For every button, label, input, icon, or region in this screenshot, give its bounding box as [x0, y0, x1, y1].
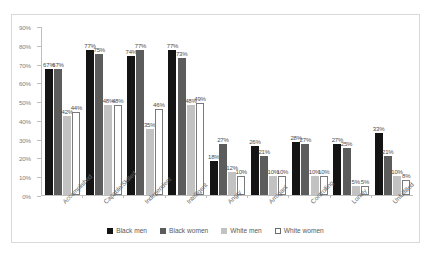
legend-label: White women	[284, 227, 324, 234]
bar[interactable]	[333, 144, 341, 195]
bar[interactable]	[63, 116, 71, 195]
bar-group: 18%27%12%10%	[207, 27, 248, 195]
bar-slot: 35%	[146, 27, 154, 195]
bar-slot: 48%	[104, 27, 112, 195]
bar-value-label: 35%	[144, 122, 155, 128]
bar-slot: 27%	[333, 27, 341, 195]
bar[interactable]	[95, 54, 103, 195]
bar-slot: 28%	[292, 27, 300, 195]
y-axis-tick-label: 80%	[19, 42, 31, 49]
bar-value-label: 21%	[258, 149, 269, 155]
bar-slot: 18%	[210, 27, 218, 195]
bar-value-label: 27%	[300, 137, 311, 143]
bar-groups: 67%67%42%44%77%75%48%48%74%77%35%46%77%7…	[42, 27, 413, 195]
bar-value-label: 67%	[52, 62, 63, 68]
y-axis-tick-label: 40%	[19, 117, 31, 124]
bar-slot: 10%	[393, 27, 401, 195]
bar-slot: 25%	[343, 27, 351, 195]
y-axis-tick: 30%	[37, 140, 41, 141]
bar-group: 77%75%48%48%	[83, 27, 124, 195]
y-axis-tick: 90%	[37, 27, 41, 28]
bar-slot: 49%	[196, 27, 204, 195]
bar-slot: 10%	[278, 27, 286, 195]
bar[interactable]	[292, 142, 300, 195]
bar[interactable]	[168, 50, 176, 195]
y-axis-tick-label: 90%	[19, 24, 31, 31]
bar-slot: 33%	[375, 27, 383, 195]
bar-slot: 44%	[72, 27, 80, 195]
y-axis-tick-label: 0%	[22, 193, 31, 200]
bar-group: 67%67%42%44%	[42, 27, 83, 195]
y-axis-tick: 80%	[37, 46, 41, 47]
legend-label: White men	[230, 227, 262, 234]
bar[interactable]	[343, 148, 351, 195]
y-axis-tick-label: 50%	[19, 99, 31, 106]
bar[interactable]	[104, 105, 112, 195]
bar[interactable]	[210, 161, 218, 195]
bar-value-label: 48%	[112, 98, 123, 104]
legend-swatch-icon	[221, 228, 227, 234]
bar-slot: 73%	[178, 27, 186, 195]
bar-value-label: 5%	[352, 179, 360, 185]
bar-slot: 5%	[352, 27, 360, 195]
y-axis-tick: 40%	[37, 121, 41, 122]
bar-slot: 10%	[237, 27, 245, 195]
bar-value-label: 75%	[94, 47, 105, 53]
legend-item-3[interactable]: White women	[275, 227, 324, 234]
bar[interactable]	[187, 105, 195, 195]
bar-group: 27%25%5%5%	[331, 27, 372, 195]
bar-slot: 46%	[155, 27, 163, 195]
bar-value-label: 10%	[318, 169, 329, 175]
bar-value-label: 10%	[391, 169, 402, 175]
bar-value-label: 74%	[126, 49, 137, 55]
bar-slot: 8%	[402, 27, 410, 195]
bar-value-label: 73%	[176, 51, 187, 57]
bar[interactable]	[260, 156, 268, 195]
y-axis-tick-label: 10%	[19, 174, 31, 181]
bar[interactable]	[384, 156, 392, 195]
bar-value-label: 46%	[153, 102, 164, 108]
bar[interactable]	[54, 69, 62, 195]
bar[interactable]	[375, 133, 383, 195]
bar-value-label: 21%	[382, 149, 393, 155]
y-axis-tick: 70%	[37, 65, 41, 66]
y-axis-tick: 50%	[37, 102, 41, 103]
y-axis-tick-label: 30%	[19, 136, 31, 143]
legend-item-1[interactable]: Black women	[160, 227, 208, 234]
bar-value-label: 8%	[402, 173, 410, 179]
bar-slot: 10%	[320, 27, 328, 195]
bar-slot: 5%	[361, 27, 369, 195]
y-axis-tick-label: 60%	[19, 80, 31, 87]
bar[interactable]	[178, 58, 186, 195]
bar-slot: 77%	[136, 27, 144, 195]
y-axis-tick-label: 70%	[19, 61, 31, 68]
bar-value-label: 27%	[217, 137, 228, 143]
bar-value-label: 18%	[208, 154, 219, 160]
y-axis-tick: 10%	[37, 177, 41, 178]
bar-value-label: 25%	[341, 141, 352, 147]
chart-legend: Black menBlack womenWhite menWhite women	[12, 227, 419, 234]
bar-slot: 48%	[114, 27, 122, 195]
bar-value-label: 10%	[236, 169, 247, 175]
legend-swatch-icon	[275, 228, 281, 234]
bar-group: 28%27%10%10%	[289, 27, 330, 195]
legend-item-0[interactable]: Black men	[107, 227, 147, 234]
bar-value-label: 26%	[249, 139, 260, 145]
bar-value-label: 77%	[135, 43, 146, 49]
plot-area: 0%10%20%30%40%50%60%70%80%90% 67%67%42%4…	[41, 27, 413, 196]
chart-container: 0%10%20%30%40%50%60%70%80%90% 67%67%42%4…	[11, 14, 420, 243]
y-axis-tick: 60%	[37, 83, 41, 84]
bar-value-label: 49%	[194, 96, 205, 102]
legend-item-2[interactable]: White men	[221, 227, 262, 234]
y-axis-tick-label: 20%	[19, 155, 31, 162]
bar-value-label: 5%	[361, 179, 369, 185]
legend-swatch-icon	[107, 228, 113, 234]
bar[interactable]	[45, 69, 53, 195]
bar-value-label: 33%	[373, 126, 384, 132]
bar-group: 77%73%48%49%	[166, 27, 207, 195]
bar-value-label: 10%	[277, 169, 288, 175]
bar[interactable]	[146, 129, 154, 195]
bar-group: 33%21%10%8%	[372, 27, 413, 195]
y-axis-tick: 20%	[37, 158, 41, 159]
legend-swatch-icon	[160, 228, 166, 234]
